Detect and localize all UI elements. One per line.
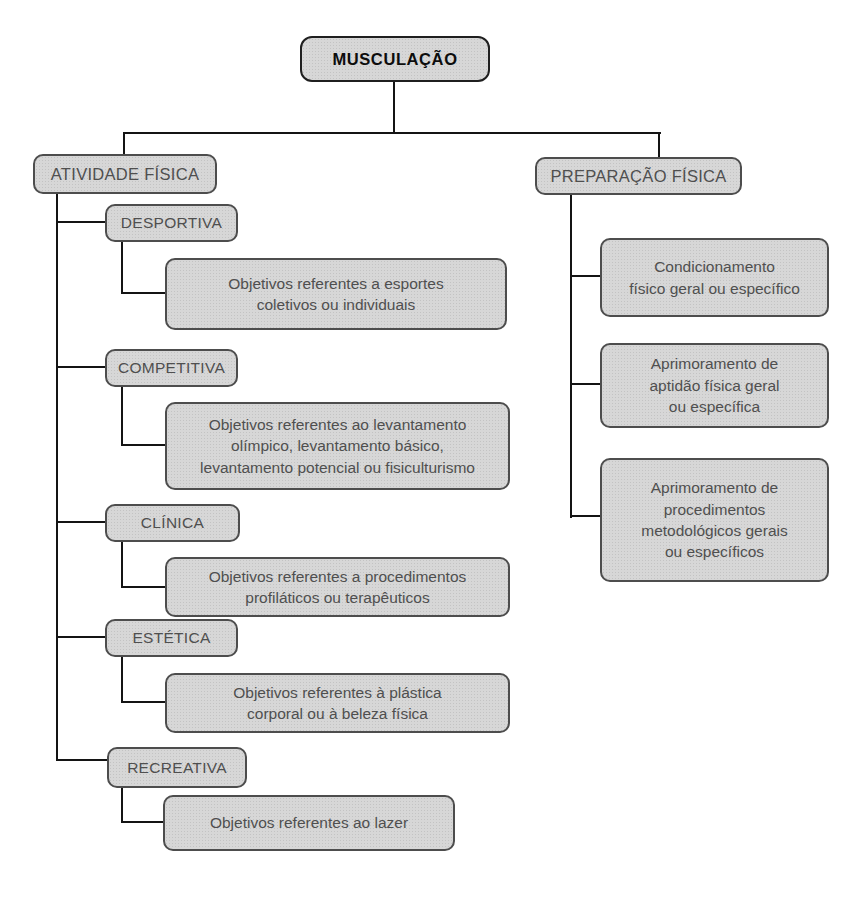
connector-stub-competitiva (56, 366, 106, 368)
connector-clinica-down (121, 541, 123, 588)
node-preparacao-fisica: PREPARAÇÃO FÍSICA (535, 157, 742, 195)
node-competitiva-desc: Objetivos referentes ao levantamento olí… (165, 402, 510, 490)
connector-stub-clinica (56, 521, 106, 523)
connector-stub-condicionamento (570, 275, 602, 277)
node-estetica-desc: Objetivos referentes à plástica corporal… (165, 673, 510, 733)
connector-main-horizontal (123, 132, 661, 134)
node-clinica-desc: Objetivos referentes a procedimentos pro… (165, 557, 510, 617)
connector-desportiva-down (121, 241, 123, 294)
connector-clinica-desc (121, 586, 167, 588)
node-desportiva-desc: Objetivos referentes a esportes coletivo… (165, 258, 507, 330)
node-recreativa-desc: Objetivos referentes ao lazer (163, 795, 455, 851)
connector-left-trunk (56, 192, 58, 761)
connector-competitiva-desc (121, 444, 167, 446)
connector-stub-desportiva (56, 221, 106, 223)
connector-recreativa-desc (121, 821, 165, 823)
node-desportiva: DESPORTIVA (105, 204, 238, 242)
node-atividade-fisica: ATIVIDADE FÍSICA (33, 154, 217, 194)
connector-right-branch-down (658, 132, 660, 159)
node-musculacao: MUSCULAÇÃO (300, 36, 490, 82)
connector-estetica-down (121, 656, 123, 703)
node-clinica: CLÍNICA (105, 504, 240, 542)
connector-left-branch-down (123, 132, 125, 156)
connector-stub-metodologicos (570, 515, 602, 517)
connector-right-trunk (570, 194, 572, 518)
connector-root-down (393, 80, 395, 134)
connector-stub-recreativa (56, 759, 108, 761)
connector-estetica-desc (121, 701, 167, 703)
node-estetica: ESTÉTICA (105, 619, 238, 657)
connector-recreativa-down (121, 787, 123, 823)
connector-competitiva-down (121, 386, 123, 446)
node-metodologicos: Aprimoramento de procedimentos metodológ… (600, 458, 829, 582)
organogram-canvas: MUSCULAÇÃO ATIVIDADE FÍSICA PREPARAÇÃO F… (0, 0, 867, 899)
connector-stub-aptidao (570, 383, 602, 385)
node-competitiva: COMPETITIVA (105, 349, 238, 387)
node-condicionamento: Condicionamento físico geral ou específi… (600, 238, 829, 317)
connector-desportiva-desc (121, 292, 167, 294)
node-aptidao: Aprimoramento de aptidão física geral ou… (600, 343, 829, 428)
connector-stub-estetica (56, 636, 106, 638)
node-recreativa: RECREATIVA (107, 747, 247, 788)
